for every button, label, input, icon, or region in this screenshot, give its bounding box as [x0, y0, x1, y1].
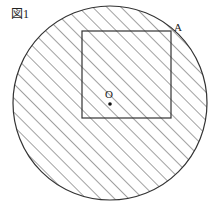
figure-diagram: O A 図1: [0, 0, 212, 202]
point-o-label: O: [105, 88, 113, 100]
figure-label: 図1: [11, 7, 29, 21]
center-point-o: [108, 102, 112, 106]
point-a-label: A: [174, 21, 182, 33]
